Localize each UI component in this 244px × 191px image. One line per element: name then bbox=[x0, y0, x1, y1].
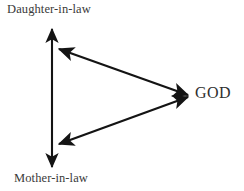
edge-daughter-god bbox=[59, 49, 188, 95]
node-label-god: GOD bbox=[195, 85, 231, 101]
edge-mother-god bbox=[59, 97, 188, 144]
diagram-canvas: Daughter-in-law Mother-in-law GOD bbox=[0, 0, 244, 191]
node-label-mother-in-law: Mother-in-law bbox=[14, 172, 88, 185]
node-label-daughter-in-law: Daughter-in-law bbox=[7, 3, 91, 16]
